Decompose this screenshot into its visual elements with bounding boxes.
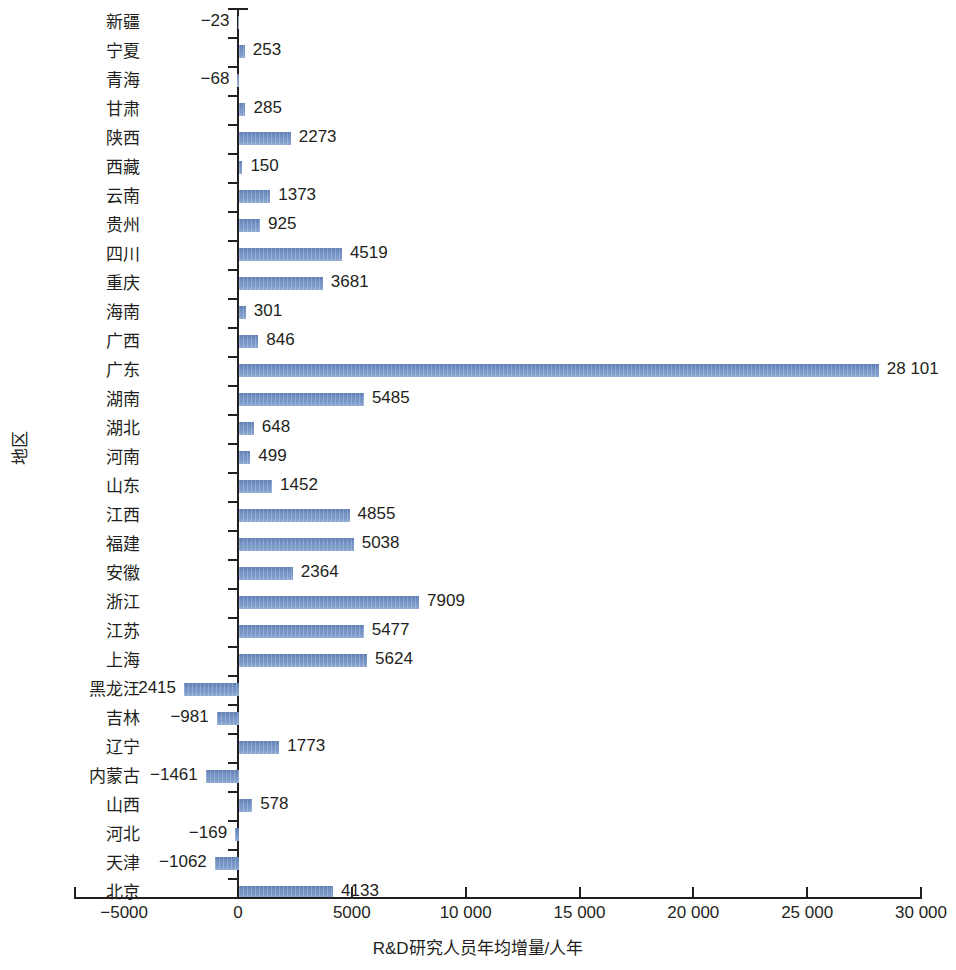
y-axis-tick: [228, 385, 238, 387]
bar: [239, 480, 272, 493]
category-label: 广西: [0, 331, 140, 352]
bar-row: 新疆−23: [0, 8, 956, 37]
category-label: 山西: [0, 795, 140, 816]
x-axis-line: [74, 897, 922, 899]
category-label: 海南: [0, 302, 140, 323]
bar-value-label: 5038: [362, 533, 400, 552]
bar: [239, 161, 242, 174]
category-label: 新疆: [0, 12, 140, 33]
category-label: 河南: [0, 447, 140, 468]
category-label: 陕西: [0, 128, 140, 149]
category-label: 上海: [0, 650, 140, 671]
category-label: 天津: [0, 853, 140, 874]
category-label: 云南: [0, 186, 140, 207]
bar: [239, 190, 270, 203]
bar-row: 山东1452: [0, 472, 956, 501]
bar-value-label: 4855: [358, 504, 396, 523]
bar-row: 湖北648: [0, 414, 956, 443]
bar: [239, 654, 367, 667]
bar-row: 安徽2364: [0, 559, 956, 588]
bar-row: 吉林−981: [0, 704, 956, 733]
bar-row: 四川4519: [0, 240, 956, 269]
bar-row: 云南1373: [0, 182, 956, 211]
bar: [215, 857, 239, 870]
y-axis-tick: [228, 66, 238, 68]
bar-value-label: 2364: [301, 562, 339, 581]
y-axis-tick: [228, 327, 238, 329]
bar-value-label: 28 101: [887, 359, 939, 378]
bar: [239, 451, 250, 464]
bar: [239, 277, 323, 290]
category-label: 福建: [0, 534, 140, 555]
bar-row: 黑龙江−2415: [0, 675, 956, 704]
bar-row: 宁夏253: [0, 37, 956, 66]
x-axis-right-cap: [920, 887, 922, 898]
y-axis-tick: [228, 472, 238, 474]
x-axis-tick-label: 10 000: [440, 903, 492, 923]
bar-value-label: 253: [253, 40, 281, 59]
y-axis-tick: [228, 240, 238, 242]
category-label: 江西: [0, 505, 140, 526]
x-axis-tick-label: 30 000: [895, 903, 947, 923]
bar-value-label: 7909: [427, 591, 465, 610]
bar-value-label: −23: [201, 11, 230, 30]
y-axis-tick: [228, 675, 238, 677]
bar: [206, 770, 239, 783]
x-axis-tick-label: 25 000: [781, 903, 833, 923]
bar-value-label: 301: [254, 301, 282, 320]
bar: [239, 335, 258, 348]
y-axis-tick: [228, 878, 238, 880]
bar: [239, 103, 245, 116]
bar-value-label: 846: [266, 330, 294, 349]
bar-value-label: 925: [268, 214, 296, 233]
category-label: 河北: [0, 824, 140, 845]
bar-value-label: 1373: [278, 185, 316, 204]
x-axis-title: R&D研究人员年均增量/人年: [0, 934, 956, 959]
bar-value-label: 578: [260, 794, 288, 813]
category-label: 西藏: [0, 157, 140, 178]
bar: [239, 799, 252, 812]
bar-value-label: 499: [258, 446, 286, 465]
y-axis-tick: [228, 704, 238, 706]
bar-row: 广西846: [0, 327, 956, 356]
y-axis-tick: [228, 356, 238, 358]
bar: [235, 828, 239, 841]
category-label: 安徽: [0, 563, 140, 584]
y-axis-tick: [228, 182, 238, 184]
y-axis-tick: [228, 37, 238, 39]
bar: [237, 74, 239, 87]
y-axis-tick: [228, 617, 238, 619]
y-axis-tick: [228, 298, 238, 300]
category-label: 重庆: [0, 273, 140, 294]
category-label: 甘肃: [0, 99, 140, 120]
category-label: 北京: [0, 882, 140, 903]
category-label: 黑龙江: [0, 679, 140, 700]
bar-row: 陕西2273: [0, 124, 956, 153]
bar-row: 河南499: [0, 443, 956, 472]
category-label: 山东: [0, 476, 140, 497]
x-axis-tick: [692, 887, 694, 898]
y-axis-tick: [228, 414, 238, 416]
y-axis-tick: [228, 849, 238, 851]
y-axis-tick: [228, 733, 238, 735]
bar-value-label: 285: [253, 98, 281, 117]
bar: [239, 741, 279, 754]
x-axis-tick-label: 20 000: [667, 903, 719, 923]
category-label: 内蒙古: [0, 766, 140, 787]
x-axis-left-cap: [74, 887, 76, 898]
bar-row: 西藏150: [0, 153, 956, 182]
bar-row: 天津−1062: [0, 849, 956, 878]
y-axis-tick: [228, 820, 238, 822]
bar-value-label: −2415: [128, 678, 176, 697]
bar-row: 江苏5477: [0, 617, 956, 646]
bar-row: 甘肃285: [0, 95, 956, 124]
bar-row: 海南301: [0, 298, 956, 327]
y-axis-tick: [228, 559, 238, 561]
bar: [239, 393, 364, 406]
x-axis-tick-label: 0: [233, 903, 242, 923]
bar: [238, 16, 240, 29]
bar-row: 青海−68: [0, 66, 956, 95]
y-axis-tick: [228, 762, 238, 764]
x-axis-tick-label: 15 000: [554, 903, 606, 923]
bar: [217, 712, 239, 725]
